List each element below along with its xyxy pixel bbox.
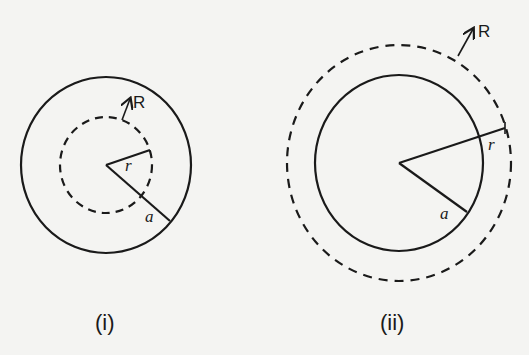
label-a-i: a: [145, 207, 154, 226]
radius-a-line-ii: [399, 163, 467, 212]
caption-i: (i): [95, 310, 115, 335]
label-R-ii: R: [478, 22, 490, 41]
label-r-i: r: [125, 156, 132, 175]
arrow-icon-R-ii: [458, 29, 473, 56]
label-R-i: R: [133, 93, 145, 112]
caption-ii: (ii): [380, 310, 404, 335]
diagram-i: R r a (i): [21, 77, 191, 335]
diagram-canvas: R r a (i) R r a (ii): [0, 0, 529, 355]
figure-svg: R r a (i) R r a (ii): [0, 0, 529, 355]
arrow-icon-R-i: [122, 99, 130, 120]
diagram-ii: R r a (ii): [287, 22, 511, 335]
label-r-ii: r: [488, 135, 495, 154]
radius-a-line-i: [106, 165, 170, 221]
label-a-ii: a: [440, 204, 449, 223]
